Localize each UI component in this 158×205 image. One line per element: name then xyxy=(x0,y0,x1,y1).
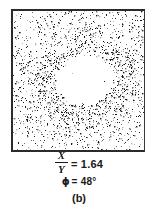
figure-caption: X Y = 1.64 ϕ = 48° (b) xyxy=(0,153,158,205)
scatter-plot-frame xyxy=(11,9,145,152)
phi-value-text: = 48° xyxy=(72,176,97,187)
ratio-denominator: Y xyxy=(56,163,67,175)
panel-label: (b) xyxy=(0,190,158,205)
ratio-line: X Y = 1.64 xyxy=(0,153,158,174)
speckle-scatter-plot xyxy=(13,11,144,150)
phi-line: ϕ = 48° xyxy=(0,174,158,189)
ratio-numerator: X xyxy=(56,150,67,162)
figure-panel-b: X Y = 1.64 ϕ = 48° (b) xyxy=(0,0,158,205)
ratio-value-text: = 1.64 xyxy=(71,158,103,170)
xy-ratio-fraction: X Y xyxy=(55,150,68,175)
phi-symbol: ϕ xyxy=(62,176,70,187)
